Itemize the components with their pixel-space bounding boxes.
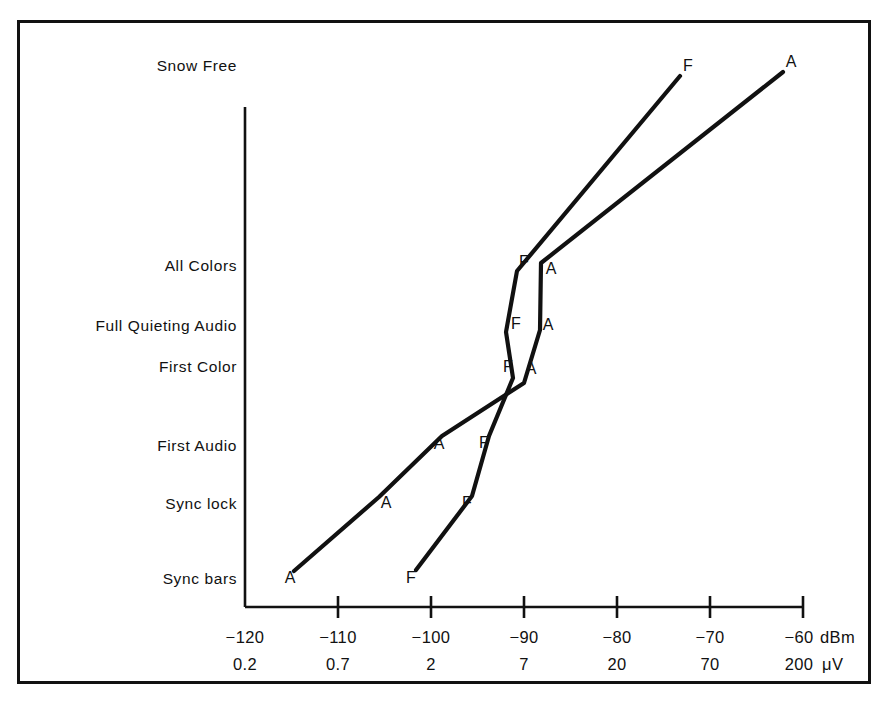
series-f-point-all-colors: F bbox=[519, 254, 529, 270]
series-a-point-snow-free: A bbox=[786, 54, 797, 70]
series-a-point-first-audio: A bbox=[434, 436, 445, 452]
series-a-point-sync-bars: A bbox=[285, 570, 296, 586]
series-a-point-sync-lock: A bbox=[381, 495, 392, 511]
series-a-point-all-colors: A bbox=[546, 261, 557, 277]
series-f-point-first-audio: F bbox=[479, 435, 489, 451]
series-a-point-full-quieting-audio: A bbox=[543, 317, 554, 333]
series-f-point-sync-bars: F bbox=[406, 570, 416, 586]
x-tick-label-uv-20: 20 bbox=[607, 655, 626, 674]
x-tick-label-uv-0-2: 0.2 bbox=[233, 655, 257, 674]
x-tick-label-uv-70: 70 bbox=[700, 655, 719, 674]
x-tick-label-dbm--80: −80 bbox=[602, 628, 631, 647]
series-a-point-first-color: A bbox=[526, 361, 537, 377]
x-tick-label-dbm--110: −110 bbox=[319, 628, 357, 647]
x-tick-label-dbm--60: −60 bbox=[784, 628, 813, 647]
series-f-point-snow-free: F bbox=[683, 58, 693, 74]
x-tick-label-dbm--120: −120 bbox=[226, 628, 265, 647]
series-f-point-first-color: F bbox=[503, 359, 513, 375]
x-tick-label-dbm--100: −100 bbox=[412, 628, 451, 647]
x-axis-unit-dbm: dBm bbox=[820, 628, 855, 647]
x-tick-label-dbm--90: −90 bbox=[509, 628, 538, 647]
x-tick-label-dbm--70: −70 bbox=[695, 628, 724, 647]
x-tick-label-uv-0-7: 0.7 bbox=[326, 655, 350, 674]
plot-area bbox=[0, 0, 883, 707]
series-a-line bbox=[294, 72, 783, 571]
x-axis-unit-microvolt: μV bbox=[822, 655, 843, 674]
series-f-point-full-quieting-audio: F bbox=[511, 316, 521, 332]
figure-canvas: Snow Free All Colors Full Quieting Audio… bbox=[0, 0, 883, 707]
x-tick-label-uv-200: 200 bbox=[785, 655, 814, 674]
x-tick-label-uv-7: 7 bbox=[519, 655, 529, 674]
series-f-point-sync-lock: F bbox=[462, 495, 472, 511]
x-tick-label-uv-2: 2 bbox=[426, 655, 436, 674]
